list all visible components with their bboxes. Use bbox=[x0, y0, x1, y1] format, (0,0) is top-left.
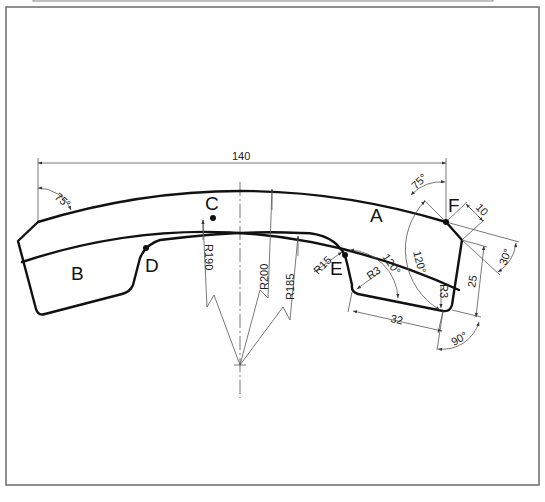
label-b: B bbox=[71, 263, 84, 284]
radius-r200-label: R200 bbox=[258, 264, 270, 290]
radius-r3-right-label: R3 bbox=[438, 284, 450, 298]
width-dimension-label: 140 bbox=[232, 150, 250, 162]
angle-90-label: 90° bbox=[449, 329, 469, 348]
angle-e-label: 120° bbox=[380, 251, 403, 277]
radius-r190-label: R190 bbox=[203, 244, 215, 270]
point-d-marker bbox=[143, 245, 149, 251]
point-f-marker bbox=[443, 219, 449, 225]
chamfer-label: 10 bbox=[474, 201, 491, 218]
label-e: E bbox=[330, 258, 343, 279]
label-c: C bbox=[205, 193, 219, 214]
label-a: A bbox=[370, 205, 383, 226]
radius-leader-r190 bbox=[203, 220, 240, 365]
radius-r185-label: R185 bbox=[284, 274, 296, 300]
point-e-marker bbox=[342, 252, 348, 258]
label-f: F bbox=[448, 195, 460, 216]
top-band bbox=[33, 0, 493, 1]
angle-90-ext bbox=[437, 311, 443, 350]
bottom-length-label: 32 bbox=[390, 312, 404, 326]
angle-75-right-label: 75° bbox=[409, 171, 429, 191]
radius-r3-left-label: R3 bbox=[364, 264, 382, 282]
chamfer-ext-2 bbox=[462, 220, 484, 240]
point-c-marker bbox=[210, 215, 216, 221]
height-label: 25 bbox=[465, 274, 479, 288]
technical-drawing: 140 75° R190 R200 R185 R15 R3 120° 120° … bbox=[0, 0, 545, 502]
angle-30-ext-a bbox=[446, 222, 519, 242]
angle-30-label: 30° bbox=[497, 247, 514, 267]
bottom-ext-left bbox=[348, 292, 352, 312]
label-d: D bbox=[145, 255, 159, 276]
drawing-frame bbox=[6, 7, 539, 485]
